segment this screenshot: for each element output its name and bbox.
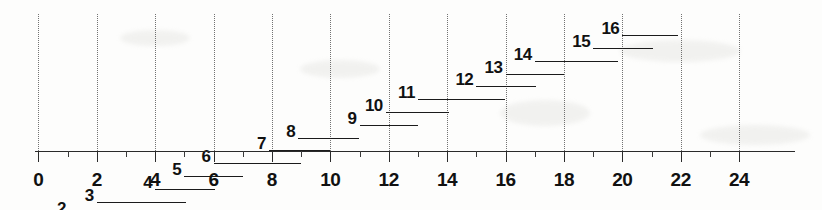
axis-minor-tick-5 <box>184 151 185 157</box>
axis-tick-label-2: 2 <box>77 170 117 189</box>
axis-tick-label-20: 20 <box>602 170 642 189</box>
interval-segment <box>360 125 418 126</box>
axis-minor-tick-3 <box>126 151 127 157</box>
gridline-0 <box>38 14 39 151</box>
gridline-8 <box>272 14 273 151</box>
interval-label-15: 15 <box>568 33 590 50</box>
interval-label-8: 8 <box>283 123 295 140</box>
axis-minor-tick-1 <box>68 151 69 157</box>
gridline-16 <box>506 14 507 151</box>
interval-segment <box>506 74 564 75</box>
axis-tick-label-24: 24 <box>719 170 759 189</box>
axis-tick-label-22: 22 <box>661 170 701 189</box>
interval-label-9: 9 <box>345 110 357 127</box>
axis-tick-4 <box>155 151 156 162</box>
interval-label-2: 2 <box>54 200 66 211</box>
interval-segment <box>535 61 618 62</box>
interval-segment <box>214 163 302 164</box>
gridline-22 <box>681 14 682 151</box>
gridline-4 <box>155 14 156 151</box>
gridline-10 <box>330 14 331 151</box>
axis-tick-20 <box>622 151 623 162</box>
interval-label-16: 16 <box>597 20 619 37</box>
interval-label-7: 7 <box>254 135 266 152</box>
axis-minor-tick-19 <box>593 151 594 157</box>
axis-tick-2 <box>97 151 98 162</box>
interval-segment <box>622 35 678 36</box>
gridline-12 <box>389 14 390 151</box>
interval-segment <box>418 99 506 100</box>
scan-smudge <box>700 125 810 145</box>
axis-tick-8 <box>272 151 273 162</box>
gridline-24 <box>739 14 740 151</box>
axis-tick-6 <box>214 151 215 162</box>
axis-minor-tick-23 <box>710 151 711 157</box>
axis-tick-label-14: 14 <box>427 170 467 189</box>
interval-label-11: 11 <box>393 84 415 101</box>
scan-smudge <box>500 100 590 126</box>
axis-minor-tick-7 <box>243 151 244 157</box>
gridline-18 <box>564 14 565 151</box>
axis-minor-tick-9 <box>301 151 302 157</box>
axis-tick-label-8: 8 <box>252 170 292 189</box>
scan-smudge <box>300 60 380 78</box>
gridline-14 <box>447 14 448 151</box>
axis-minor-tick-17 <box>535 151 536 157</box>
axis-minor-tick-13 <box>418 151 419 157</box>
interval-label-13: 13 <box>481 59 503 76</box>
axis-tick-18 <box>564 151 565 162</box>
axis-tick-label-4: 4 <box>135 170 175 189</box>
axis-minor-tick-15 <box>476 151 477 157</box>
axis-tick-22 <box>681 151 682 162</box>
interval-segment <box>97 202 186 203</box>
axis-tick-10 <box>330 151 331 162</box>
axis-tick-label-18: 18 <box>544 170 584 189</box>
gridline-2 <box>97 14 98 151</box>
axis-tick-label-0: 0 <box>18 170 58 189</box>
axis-tick-label-12: 12 <box>369 170 409 189</box>
axis-minor-tick-11 <box>360 151 361 157</box>
axis-tick-0 <box>38 151 39 162</box>
interval-segment <box>386 112 449 113</box>
axis-tick-24 <box>739 151 740 162</box>
axis-tick-label-16: 16 <box>486 170 526 189</box>
interval-label-10: 10 <box>361 97 383 114</box>
interval-segment <box>593 48 653 49</box>
interval-segment <box>476 86 536 87</box>
axis-tick-16 <box>506 151 507 162</box>
interval-label-14: 14 <box>510 46 532 63</box>
axis-tick-label-10: 10 <box>310 170 350 189</box>
interval-segment <box>298 138 359 139</box>
axis-tick-14 <box>447 151 448 162</box>
axis-minor-tick-21 <box>652 151 653 157</box>
interval-label-12: 12 <box>451 71 473 88</box>
axis-tick-label-6: 6 <box>194 170 234 189</box>
interval-chart: 12345678910111213141516 0246810121416182… <box>0 0 822 210</box>
gridline-6 <box>214 14 215 151</box>
axis-tick-12 <box>389 151 390 162</box>
